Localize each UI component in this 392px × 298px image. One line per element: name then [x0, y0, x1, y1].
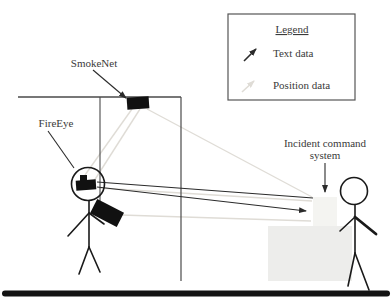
incident-command-box — [313, 197, 337, 226]
operator-right-arm — [355, 217, 376, 234]
position-line-smokenet-to-ics — [147, 109, 312, 197]
ics-label-line2: system — [310, 149, 341, 161]
legend-item-position-data: Position data — [273, 79, 330, 91]
diagram-canvas: Legend Text data Position data SmokeNet … — [0, 0, 392, 298]
ics-label-line1: Incident command — [284, 137, 367, 149]
tablet-device — [90, 199, 124, 227]
firefighter-left-leg — [79, 247, 89, 274]
system-diagram: Legend Text data Position data SmokeNet … — [0, 0, 392, 298]
fireeye-label: FireEye — [39, 117, 74, 129]
legend-item-text-data: Text data — [273, 47, 314, 59]
fireeye-device-top — [80, 175, 87, 181]
smokenet-pointer-arrow — [93, 70, 126, 98]
bottom-bar — [2, 291, 390, 297]
smokenet-label: SmokeNet — [71, 57, 117, 69]
fireeye-device — [76, 179, 97, 190]
position-line-smokenet-to-fireeye-2 — [94, 109, 140, 181]
position-data-lines — [85, 109, 312, 221]
smokenet-device — [127, 96, 150, 110]
operator-right-leg — [355, 253, 369, 290]
position-line-smokenet-to-fireeye — [85, 109, 132, 175]
desk-box — [268, 226, 352, 281]
legend-title: Legend — [276, 23, 309, 35]
firefighter-left-arm — [68, 213, 89, 236]
operator-head — [341, 178, 368, 205]
position-line-tablet-to-ics — [121, 215, 311, 221]
fireeye-pointer-line — [48, 131, 74, 168]
legend: Legend Text data Position data — [228, 14, 355, 100]
firefighter-right-leg — [89, 247, 100, 272]
